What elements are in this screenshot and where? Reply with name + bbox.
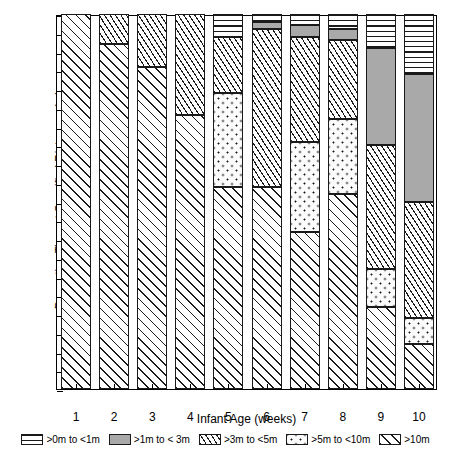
legend-swatch-icon (21, 434, 43, 445)
legend-swatch-icon (379, 434, 401, 445)
stacked-bar-chart: Proportion Time at Specified Distances (… (0, 0, 451, 456)
x-axis-tick (305, 384, 306, 389)
legend-swatch-icon (109, 434, 131, 445)
bar-group (99, 14, 129, 389)
x-axis-tick (381, 384, 382, 389)
legend-swatch-icon (199, 434, 221, 445)
y-axis-minor-tick (57, 35, 61, 36)
plot-inner: 010203040506070809010012345678910 (57, 16, 436, 389)
bar-group (290, 14, 320, 389)
bar-segment (328, 40, 358, 119)
bar-group (252, 14, 282, 389)
x-axis-tick (228, 384, 229, 389)
x-axis-tick (76, 384, 77, 389)
bar-segment (99, 44, 129, 389)
bar-group (328, 14, 358, 389)
bar-group (213, 14, 243, 389)
legend-item[interactable]: >5m to <10m (286, 434, 370, 445)
x-axis-tick (343, 384, 344, 389)
legend-item[interactable]: >0m to <1m (21, 434, 99, 445)
legend-label: >0m to <1m (46, 434, 99, 445)
legend-label: >1m to < 3m (134, 434, 190, 445)
bar-segment (404, 344, 434, 389)
bar-segment (290, 25, 320, 36)
x-axis-title: Infant Age (weeks) (56, 412, 437, 426)
bar-group (404, 14, 434, 389)
bar-segment (290, 232, 320, 390)
x-axis-tick (114, 384, 115, 389)
legend-label: >5m to <10m (311, 434, 370, 445)
bar-segment (404, 318, 434, 344)
legend-item[interactable]: >1m to < 3m (109, 434, 190, 445)
legend-label: >3m to <5m (224, 434, 277, 445)
bar-segment (366, 48, 396, 146)
bar-segment (213, 37, 243, 93)
bar-segment (404, 74, 434, 202)
bar-segment (404, 202, 434, 318)
y-axis-minor-tick (57, 372, 61, 373)
bar-segment (366, 14, 396, 48)
chart-legend: >0m to <1m>1m to < 3m>3m to <5m>5m to <1… (0, 434, 451, 445)
bar-segment (290, 14, 320, 25)
bar-segment (328, 29, 358, 40)
y-axis-minor-tick (57, 147, 61, 148)
x-axis-tick (419, 384, 420, 389)
bar-segment (252, 29, 282, 187)
bar-segment (404, 14, 434, 74)
y-axis-minor-tick (57, 72, 61, 73)
bar-segment (328, 119, 358, 194)
bar-segment (252, 187, 282, 390)
legend-item[interactable]: >10m (379, 434, 429, 445)
x-axis-tick (190, 384, 191, 389)
y-axis-minor-tick (57, 222, 61, 223)
y-axis-minor-tick (57, 185, 61, 186)
bar-segment (175, 115, 205, 389)
bar-segment (213, 14, 243, 37)
bar-segment (61, 14, 91, 389)
bar-segment (213, 187, 243, 390)
legend-label: >10m (404, 434, 429, 445)
bar-segment (175, 14, 205, 115)
x-axis-tick (152, 384, 153, 389)
y-axis-minor-tick (57, 297, 61, 298)
legend-item[interactable]: >3m to <5m (199, 434, 277, 445)
bar-segment (252, 14, 282, 22)
bar-group (137, 14, 167, 389)
y-axis-tick (57, 391, 63, 392)
y-axis-minor-tick (57, 260, 61, 261)
bar-group (175, 14, 205, 389)
bar-segment (213, 93, 243, 187)
legend-swatch-icon (286, 434, 308, 445)
bar-segment (328, 14, 358, 29)
y-axis-minor-tick (57, 110, 61, 111)
bar-segment (137, 14, 167, 67)
bar-segment (290, 142, 320, 232)
bar-segment (328, 194, 358, 389)
x-axis-tick (267, 384, 268, 389)
y-axis-minor-tick (57, 335, 61, 336)
bar-segment (99, 14, 129, 44)
bar-segment (366, 269, 396, 307)
bar-segment (366, 307, 396, 390)
bar-segment (252, 22, 282, 30)
bar-segment (137, 67, 167, 390)
bar-segment (290, 37, 320, 142)
bar-segment (366, 145, 396, 269)
plot-area: 010203040506070809010012345678910 (56, 15, 437, 390)
bar-group (366, 14, 396, 389)
bar-group (61, 14, 91, 389)
